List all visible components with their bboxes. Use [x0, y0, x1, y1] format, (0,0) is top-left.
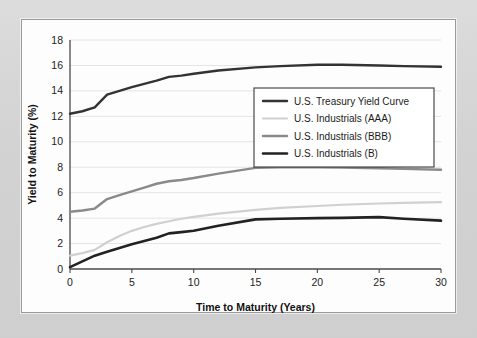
figure-root: 024681012141618 051015202530 Time to Mat…: [0, 0, 477, 338]
y-tick-label: 16: [51, 59, 63, 71]
legend-label-0[interactable]: U.S. Treasury Yield Curve: [294, 96, 409, 107]
x-tick-label: 30: [435, 276, 447, 288]
y-tick-label: 10: [51, 135, 63, 147]
chart-panel: 024681012141618 051015202530 Time to Mat…: [21, 19, 456, 313]
y-tick-label: 2: [57, 237, 63, 249]
y-tick-label: 18: [51, 34, 63, 46]
x-tick-label: 5: [129, 276, 135, 288]
x-tick-label: 15: [250, 276, 262, 288]
x-axis-title: Time to Maturity (Years): [196, 301, 315, 313]
y-tick-label: 14: [51, 84, 63, 96]
y-tick-label: 4: [57, 212, 63, 224]
y-tick-label: 6: [57, 186, 63, 198]
series-line-1: [70, 202, 441, 255]
x-tick-labels-group: 051015202530: [67, 276, 447, 288]
legend-label-2[interactable]: U.S. Industrials (BBB): [294, 131, 391, 142]
y-tick-label: 8: [57, 161, 63, 173]
x-tick-label: 10: [188, 276, 200, 288]
legend-group[interactable]: U.S. Treasury Yield CurveU.S. Industrial…: [254, 88, 434, 167]
y-tick-labels-group: 024681012141618: [51, 34, 63, 275]
y-tick-label: 12: [51, 110, 63, 122]
x-tick-label: 25: [373, 276, 385, 288]
x-tick-label: 0: [67, 276, 73, 288]
series-line-3: [70, 217, 441, 267]
series-line-2: [70, 167, 441, 212]
y-axis-title: Yield to Maturity (%): [26, 104, 38, 205]
legend-label-1[interactable]: U.S. Industrials (AAA): [294, 113, 391, 124]
x-tick-label: 20: [311, 276, 323, 288]
yield-curve-chart: 024681012141618 051015202530 Time to Mat…: [22, 20, 457, 314]
y-tick-label: 0: [57, 263, 63, 275]
legend-label-3[interactable]: U.S. Industrials (B): [294, 148, 378, 159]
